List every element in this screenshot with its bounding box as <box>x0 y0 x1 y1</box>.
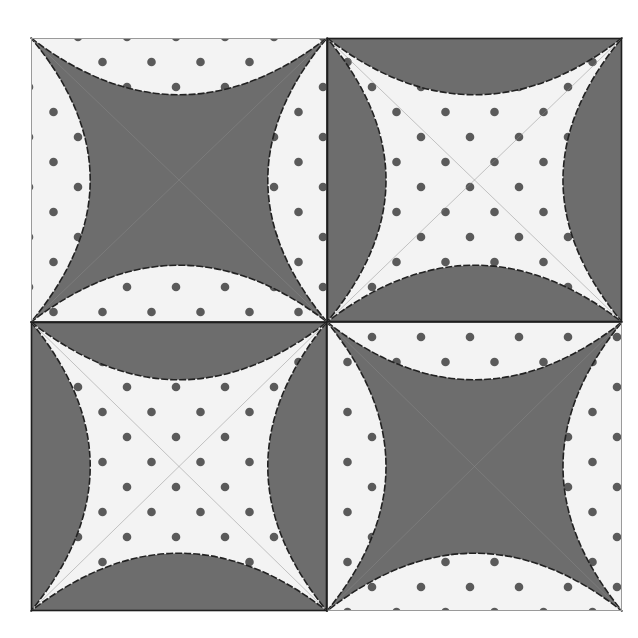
quadrant-top-left <box>31 38 327 322</box>
quadrant-bottom-left <box>31 322 327 611</box>
quadrants-group <box>31 38 622 611</box>
quadrant-top-right <box>327 38 622 322</box>
quilt-block-illustration <box>0 0 638 638</box>
quadrant-bottom-right <box>327 322 622 611</box>
quilt-block <box>0 0 638 638</box>
